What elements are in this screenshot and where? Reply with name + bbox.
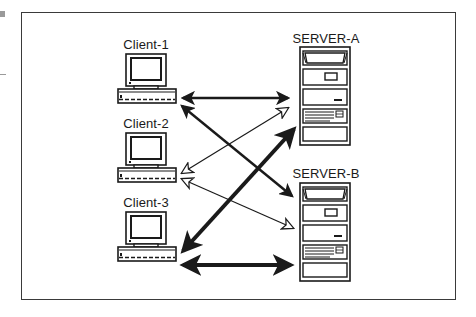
client-3-computer-icon <box>118 212 176 261</box>
client-2-computer-icon <box>118 133 176 182</box>
client-1-computer-icon <box>118 54 176 103</box>
server-b-tower-icon <box>300 183 350 281</box>
diagram-canvas <box>0 0 476 317</box>
server-a-tower-icon <box>300 47 350 145</box>
arrow-client2-server-b <box>182 179 293 228</box>
arrow-client3-server-a <box>183 129 294 251</box>
